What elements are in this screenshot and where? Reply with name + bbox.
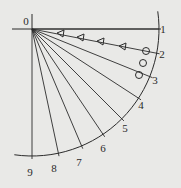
triangle-marker-group [57, 30, 126, 50]
ray-8 [32, 29, 59, 156]
ray-label-7: 7 [76, 157, 82, 168]
ray-label-6: 6 [100, 143, 106, 154]
circle-marker-group [136, 48, 150, 79]
ray-group [32, 29, 160, 159]
triangle-marker-icon [97, 38, 104, 45]
ray-label-3: 3 [152, 75, 158, 86]
circle-marker-icon [140, 60, 147, 67]
triangle-marker-icon [57, 30, 64, 37]
ray-5 [32, 29, 124, 121]
ray-label-9: 9 [27, 167, 33, 178]
ray-label-2: 2 [159, 49, 165, 60]
ray-label-8: 8 [51, 163, 57, 174]
triangle-marker-icon [77, 34, 84, 41]
ray-diagram: 0 123456789 [0, 0, 181, 188]
origin-label: 0 [23, 16, 29, 27]
ray-6 [32, 29, 105, 137]
ray-label-5: 5 [122, 123, 128, 134]
ray-label-1: 1 [160, 24, 166, 35]
ray-3 [32, 29, 153, 78]
ray-label-4: 4 [138, 100, 144, 111]
ray-7 [32, 29, 83, 149]
diagram-canvas [0, 0, 181, 188]
